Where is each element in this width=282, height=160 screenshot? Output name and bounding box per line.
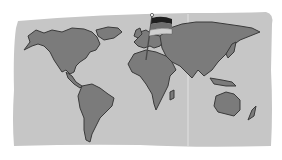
continent-australia — [214, 92, 240, 116]
island-madagascar — [170, 90, 174, 100]
world-map-illustration: World map with flag planted in Europe — [0, 0, 282, 160]
world-map-svg — [0, 0, 282, 160]
flag-pole-knob — [150, 13, 153, 16]
